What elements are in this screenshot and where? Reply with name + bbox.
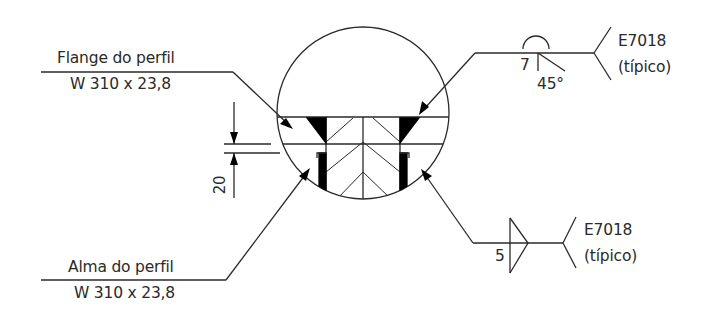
top-weld-electrode: E7018 bbox=[618, 32, 666, 50]
top-weld-semicircle-symbol bbox=[523, 36, 549, 49]
bottom-weld-note: (típico) bbox=[584, 247, 637, 265]
bottom-weld-tail-upper bbox=[563, 217, 576, 243]
top-weld-angle: 45° bbox=[537, 75, 564, 93]
flange-arrowhead bbox=[280, 118, 293, 129]
web-callout-profile: W 310 x 23,8 bbox=[74, 284, 175, 302]
dim-arrowhead-bottom bbox=[230, 153, 238, 165]
bottom-weld-size: 5 bbox=[495, 247, 505, 265]
web-callout-label: Alma do perfil bbox=[68, 258, 174, 276]
dim-arrowhead-top bbox=[230, 132, 238, 144]
bottom-weld-electrode: E7018 bbox=[584, 221, 632, 239]
groove-weld-right bbox=[400, 153, 407, 192]
fillet-weld-right bbox=[400, 118, 419, 143]
top-weld-fillet-diagonal bbox=[538, 53, 565, 71]
top-weld-arrowhead bbox=[419, 101, 429, 115]
groove-weld-left bbox=[319, 153, 326, 192]
bottom-weld-tail-lower bbox=[563, 243, 576, 268]
top-weld-note: (típico) bbox=[618, 58, 671, 76]
top-weld-leader bbox=[425, 53, 475, 108]
top-weld-tail-upper bbox=[594, 27, 611, 53]
top-weld-tail-lower bbox=[594, 53, 611, 80]
flange-callout-label: Flange do perfil bbox=[57, 49, 175, 67]
top-weld-size: 7 bbox=[520, 56, 530, 74]
bottom-weld-symbol-triangle bbox=[510, 218, 528, 273]
dimension-value: 20 bbox=[211, 176, 229, 195]
fillet-weld-left bbox=[307, 118, 326, 143]
flange-callout-profile: W 310 x 23,8 bbox=[70, 75, 171, 93]
flange-callout-leader bbox=[233, 72, 289, 125]
bottom-weld-leader bbox=[426, 176, 473, 243]
web-callout-leader bbox=[226, 175, 305, 280]
